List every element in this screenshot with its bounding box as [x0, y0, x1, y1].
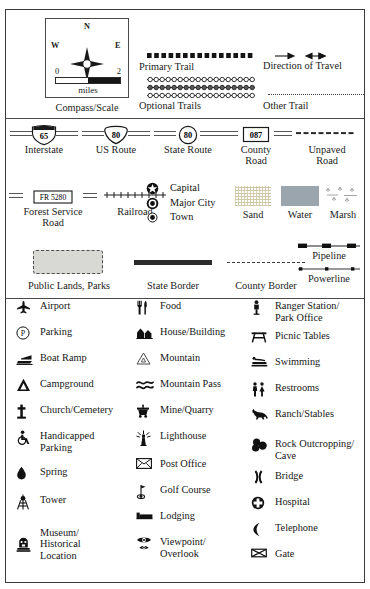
- fork-knife-icon: [136, 300, 156, 315]
- state-route-shield-icon: 80: [152, 122, 224, 144]
- other-trail-symbol: [268, 94, 365, 98]
- legend-item-museum: Museum/ Historical Location: [16, 524, 140, 564]
- legend-item-golf-course: Golf Course: [136, 484, 252, 510]
- gate-icon: [251, 548, 271, 558]
- direction-of-travel-caption: Direction of Travel: [263, 60, 365, 71]
- cross-icon: [16, 404, 36, 419]
- airplane-icon: [16, 300, 36, 315]
- wheelchair-icon: [16, 430, 36, 445]
- church-cemetery-label: Church/Cemetery: [36, 404, 113, 416]
- water-drop-icon: [16, 466, 36, 480]
- public-lands-swatch: [33, 250, 103, 274]
- forest-service-road-number: FR 5280: [40, 193, 67, 202]
- compass-scale-box: N S E W 0 2 miles: [45, 18, 129, 98]
- legend-row-areas: Public Lands, Parks State Border County …: [6, 246, 364, 298]
- mine-cart-icon: [136, 404, 156, 418]
- handicapped-parking-label: Handicapped Parking: [36, 430, 94, 453]
- legend-item-lodging: Lodging: [136, 510, 252, 536]
- powerline-caption: Powerline: [298, 273, 360, 284]
- airport-label: Airport: [36, 300, 70, 312]
- county-road-number: 087: [250, 131, 263, 140]
- legend-item-church-cemetery: Church/Cemetery: [16, 404, 140, 430]
- scale-min-label: 0: [55, 66, 59, 76]
- legend-item-marsh: Marsh: [322, 186, 364, 220]
- interstate-number: 65: [40, 132, 48, 141]
- legend-item-food: Food: [136, 300, 252, 326]
- compass-scale-caption: Compass/Scale: [28, 102, 146, 113]
- parking-label: Parking: [36, 326, 72, 338]
- scale-max-label: 2: [117, 66, 121, 76]
- marsh-swatch: [324, 186, 362, 206]
- pipeline-symbol: [298, 242, 360, 250]
- state-border-caption: State Border: [128, 280, 218, 291]
- state-route-number: 80: [184, 131, 192, 140]
- legend-item-water: Water: [276, 186, 324, 220]
- unpaved-road-icon: [290, 122, 364, 144]
- major-city-label: Major City: [166, 197, 215, 209]
- divider-2: [6, 298, 364, 299]
- scale-bar: 0 2 miles: [55, 77, 121, 95]
- envelope-icon: [136, 458, 156, 469]
- tent-icon: [16, 378, 36, 392]
- compass-north-label: N: [84, 22, 90, 31]
- picnic-tables-label: Picnic Tables: [271, 330, 330, 342]
- museum-label: Museum/ Historical Location: [36, 527, 81, 562]
- water-caption: Water: [276, 209, 324, 220]
- compass-rose-icon: [70, 47, 104, 81]
- campground-label: Campground: [36, 378, 94, 390]
- golf-course-label: Golf Course: [156, 484, 211, 496]
- legend-item-capital: Capital: [146, 182, 236, 195]
- capital-star-icon: [146, 182, 166, 195]
- public-lands-caption: Public Lands, Parks: [10, 280, 128, 291]
- legend-item-mountain-pass: Mountain Pass: [136, 378, 252, 404]
- picnic-table-icon: [251, 330, 271, 343]
- town-icon: [146, 211, 166, 224]
- optional-trails-caption: Optional Trails: [139, 100, 263, 111]
- legend-item-ranger-station: Ranger Station/ Park Office: [251, 300, 363, 330]
- legend-row-fills: FR 5280 Forest Service Road: [6, 184, 364, 246]
- lodging-label: Lodging: [156, 510, 195, 522]
- eye-icon: [136, 536, 156, 552]
- legend-item-mine-quarry: Mine/Quarry: [136, 404, 252, 430]
- legend-item-lighthouse: Lighthouse: [136, 430, 252, 458]
- sand-caption: Sand: [230, 209, 276, 220]
- viewpoint-overlook-label: Viewpoint/ Overlook: [156, 536, 206, 559]
- legend-item-tower: Tower: [16, 494, 140, 524]
- legend-item-interstate: 65 Interstate: [8, 122, 80, 155]
- legend-row-trails: N S E W 0 2 miles: [6, 10, 364, 118]
- unpaved-road-caption: Unpaved Road: [290, 144, 364, 167]
- legend-symbol-grid: Airport P Parking: [6, 300, 364, 582]
- powerline-symbol: [298, 265, 360, 273]
- other-trail-caption: Other Trail: [263, 100, 365, 111]
- telephone-handset-icon: [251, 522, 271, 537]
- mine-quarry-label: Mine/Quarry: [156, 404, 214, 416]
- pipeline-caption: Pipeline: [298, 250, 360, 261]
- swimming-label: Swimming: [271, 356, 320, 368]
- legend-item-town: Town: [146, 211, 236, 224]
- museum-icon: [16, 537, 36, 552]
- ranger-station-label: Ranger Station/ Park Office: [271, 300, 339, 323]
- food-label: Food: [156, 300, 181, 312]
- boat-ramp-icon: [16, 352, 36, 365]
- legend-item-sand: Sand: [230, 186, 276, 220]
- scale-units-label: miles: [55, 85, 121, 95]
- legend-item-airport: Airport: [16, 300, 140, 326]
- county-road-caption: County Road: [220, 144, 292, 167]
- bridge-label: Bridge: [271, 470, 303, 482]
- legend-item-rock-outcropping: Rock Outcropping/ Cave: [251, 438, 363, 470]
- horse-icon: [251, 408, 271, 420]
- legend-item-mountain: Mountain: [136, 352, 252, 378]
- sand-swatch: [235, 186, 271, 206]
- water-swatch: [281, 186, 319, 206]
- legend-row-routes: 65 Interstate 80 US Route: [6, 122, 364, 182]
- interstate-shield-icon: 65: [8, 122, 80, 144]
- bed-icon: [136, 510, 156, 520]
- legend-item-post-office: Post Office: [136, 458, 252, 484]
- svg-text:P: P: [21, 329, 26, 338]
- buildings-icon: [136, 326, 156, 339]
- symbol-column-3: Ranger Station/ Park Office Picnic Table…: [251, 300, 363, 574]
- lighthouse-icon: [136, 430, 156, 446]
- primary-trail-caption: Primary Trail: [139, 61, 263, 72]
- state-border-symbol: [134, 260, 212, 265]
- ranch-stables-label: Ranch/Stables: [271, 408, 334, 420]
